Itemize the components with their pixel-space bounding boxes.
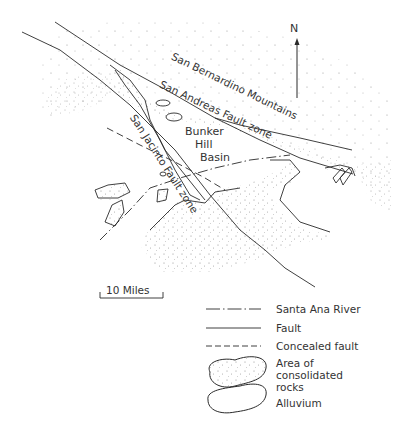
legend-concealed-fault: Concealed fault — [276, 340, 358, 352]
legend-santa-ana-river: Santa Ana River — [276, 303, 360, 315]
basin-label-2: Hill — [195, 138, 212, 151]
legend-fault: Fault — [276, 322, 301, 334]
legend-symbols — [206, 309, 266, 413]
legend-consolidated-line1: Area of — [276, 357, 314, 369]
legend-alluvium: Alluvium — [276, 397, 322, 409]
basin-label-1: Bunker — [185, 125, 224, 138]
legend-consolidated-line3: rocks — [276, 381, 304, 393]
basin-label-3: Basin — [200, 151, 230, 164]
scale-bar-label: 10 Miles — [106, 284, 150, 296]
legend-consolidated-line2: consolidated — [276, 369, 343, 381]
north-label: N — [290, 22, 298, 35]
